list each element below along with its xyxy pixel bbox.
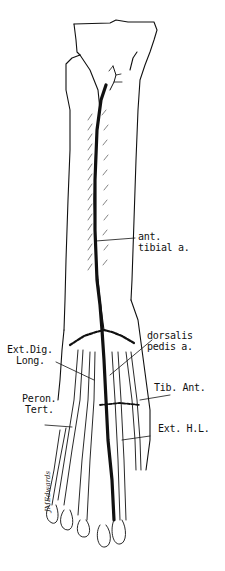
anterior-tibial-artery: [95, 85, 114, 520]
toe-3: [77, 520, 89, 537]
label-tib-ant: Tib. Ant.: [154, 382, 206, 393]
tibia-shaft-left: [80, 55, 104, 330]
tibia-notch: [130, 52, 137, 70]
label-peron-tert: Peron. Tert.: [22, 393, 56, 415]
leader-dorsalis-pedis: [110, 340, 152, 375]
leader-tib-ant: [140, 395, 170, 400]
leader-ant-tibial: [96, 238, 135, 241]
leader-ext-dig-long: [56, 362, 94, 380]
leader-peron-tert: [45, 425, 72, 427]
artist-signature: JMEdwards: [44, 471, 52, 512]
tibia-head-left: [74, 24, 80, 55]
anatomical-diagram: [0, 0, 225, 571]
label-ant-tibial: ant. tibial a.: [138, 231, 190, 253]
toe-2: [61, 510, 73, 530]
label-ext-hl: Ext. H.L.: [158, 423, 210, 434]
label-dorsalis-pedis: dorsalis pedis a.: [147, 330, 193, 352]
toe-4: [97, 525, 110, 547]
leader-ext-hl: [122, 436, 150, 440]
label-ext-dig-long: Ext.Dig. Long.: [7, 344, 53, 366]
tibia-head: [74, 20, 157, 300]
fibula: [64, 55, 80, 330]
toe-5: [112, 520, 126, 544]
